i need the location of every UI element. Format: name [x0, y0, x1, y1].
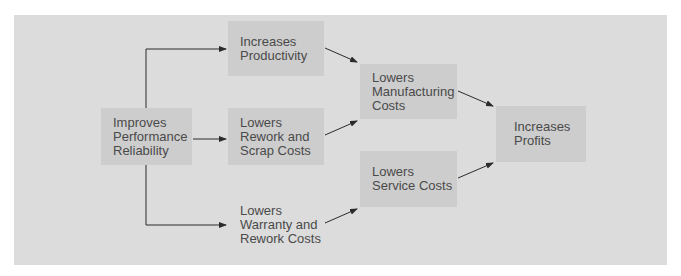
arrow-manufacturing-to-profits	[458, 91, 493, 106]
node-lowers-service-costs: Lowers Service Costs	[360, 151, 457, 207]
node-line: Warranty and	[240, 218, 324, 232]
node-line: Productivity	[240, 49, 324, 63]
node-line: Lowers	[240, 204, 324, 218]
arrow-productivity-to-manufacturing	[325, 48, 357, 62]
node-lowers-manufacturing-costs: Lowers Manufacturing Costs	[360, 64, 457, 119]
arrow-service-to-profits	[458, 163, 493, 178]
node-line: Lowers	[372, 165, 457, 179]
node-line: Manufacturing	[372, 85, 457, 99]
arrow-reliability-to-productivity	[146, 49, 226, 108]
node-line: Increases	[514, 120, 586, 134]
arrow-warranty-to-service	[325, 209, 357, 223]
node-lowers-warranty-rework-costs: Lowers Warranty and Rework Costs	[228, 197, 324, 252]
node-line: Lowers	[372, 71, 457, 85]
arrow-rework-scrap-to-manufacturing	[325, 121, 357, 135]
node-lowers-rework-scrap-costs: Lowers Rework and Scrap Costs	[228, 108, 324, 165]
node-line: Increases	[240, 35, 324, 49]
node-increases-profits: Increases Profits	[496, 106, 586, 162]
node-line: Profits	[514, 134, 586, 148]
node-line: Reliability	[113, 144, 192, 158]
node-line: Rework Costs	[240, 232, 324, 246]
arrow-reliability-to-warranty	[146, 165, 226, 225]
node-line: Service Costs	[372, 179, 457, 193]
node-line: Improves	[113, 116, 192, 130]
node-line: Scrap Costs	[240, 144, 324, 158]
node-increases-productivity: Increases Productivity	[228, 21, 324, 76]
node-line: Lowers	[240, 116, 324, 130]
node-improves-performance-reliability: Improves Performance Reliability	[101, 108, 192, 165]
node-line: Rework and	[240, 130, 324, 144]
node-line: Costs	[372, 99, 457, 113]
node-line: Performance	[113, 130, 192, 144]
